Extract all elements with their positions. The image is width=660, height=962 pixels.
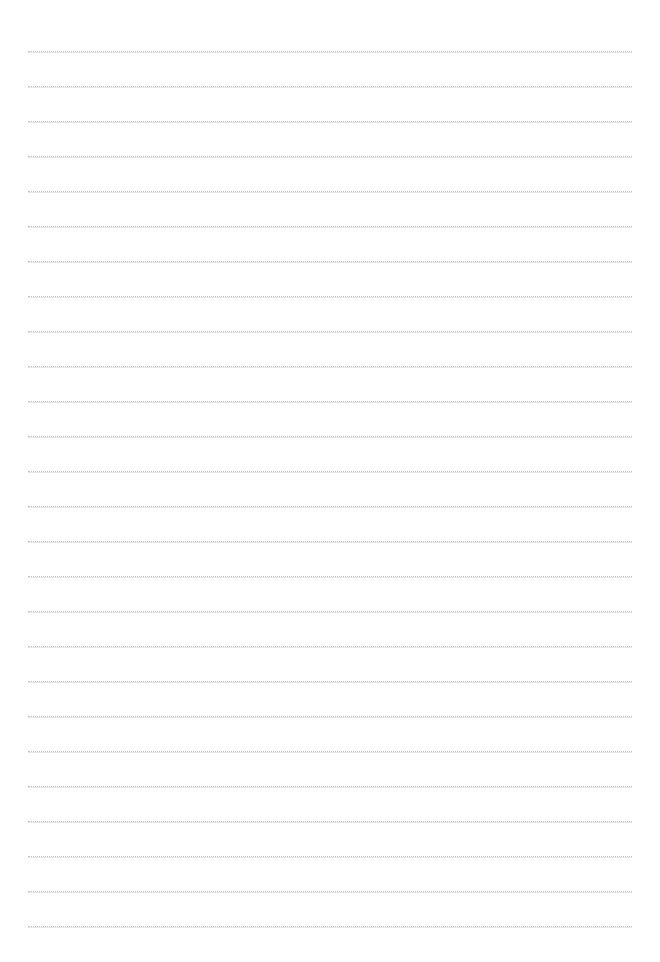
rule-line[interactable] (28, 506, 632, 507)
rule-line[interactable] (28, 261, 632, 262)
rule-line[interactable] (28, 296, 632, 297)
rule-line[interactable] (28, 121, 632, 122)
rule-line[interactable] (28, 611, 632, 612)
rule-line[interactable] (28, 856, 632, 857)
rule-line[interactable] (28, 86, 632, 87)
page-canvas (0, 0, 660, 962)
rule-line[interactable] (28, 471, 632, 472)
rule-line[interactable] (28, 891, 632, 892)
ruled-writing-area[interactable] (28, 0, 632, 962)
rule-line[interactable] (28, 786, 632, 787)
rule-line[interactable] (28, 681, 632, 682)
rule-line[interactable] (28, 401, 632, 402)
rule-line[interactable] (28, 646, 632, 647)
rule-line[interactable] (28, 156, 632, 157)
rule-line[interactable] (28, 191, 632, 192)
rule-line[interactable] (28, 576, 632, 577)
rule-line[interactable] (28, 716, 632, 717)
rule-line[interactable] (28, 331, 632, 332)
rule-line[interactable] (28, 541, 632, 542)
rule-line[interactable] (28, 366, 632, 367)
rule-line[interactable] (28, 436, 632, 437)
rule-line[interactable] (28, 226, 632, 227)
rule-line[interactable] (28, 51, 632, 52)
rule-line[interactable] (28, 751, 632, 752)
rule-line[interactable] (28, 926, 632, 927)
rule-line[interactable] (28, 821, 632, 822)
